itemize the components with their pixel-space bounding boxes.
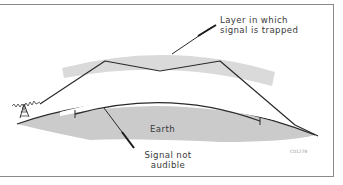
figure-code: C01278 <box>290 147 307 157</box>
earth-shape <box>17 102 315 142</box>
layer-label: Layer in which signal is trapped <box>220 15 298 35</box>
layer-label-line2: signal is trapped <box>220 25 298 35</box>
antenna-wire <box>12 101 40 107</box>
layer-leader-line-thick <box>198 25 216 36</box>
signal-label-line2: audible <box>138 160 198 170</box>
layer-label-line1: Layer in which <box>220 15 298 25</box>
signal-label-line1: Signal not <box>138 150 198 160</box>
signal-not-audible-label: Signal not audible <box>138 150 198 170</box>
earth-label: Earth <box>150 124 175 134</box>
